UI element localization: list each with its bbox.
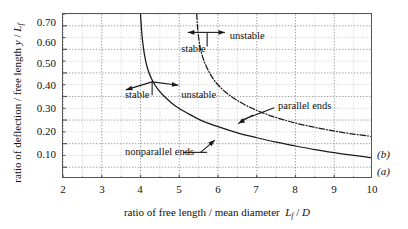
x-tick-label-10: 10: [362, 184, 382, 195]
y-tick-label-020: 0.20: [22, 126, 56, 137]
x-tick-label-5: 5: [169, 184, 189, 195]
x-axis-slash: /: [296, 206, 299, 218]
grid-major: [63, 14, 372, 178]
plot-svg: [63, 14, 372, 178]
curve-end-label-a: (a): [377, 165, 390, 177]
x-tick-label-3: 3: [92, 184, 112, 195]
leader-arrow: [207, 30, 225, 35]
x-axis-title: ratio of free length / mean diameter Lf …: [62, 206, 372, 220]
x-tick-label-4: 4: [130, 184, 150, 195]
curve-end-label-b: (b): [377, 148, 390, 160]
annotation-unstable-lower: unstable: [181, 89, 216, 100]
x-tick-label-7: 7: [246, 184, 266, 195]
y-tick-label-040: 0.40: [22, 80, 56, 91]
y-tick-label-060: 0.60: [22, 37, 56, 48]
plot-area: stable unstable stable unstable parallel…: [62, 13, 372, 178]
annotation-nonparallel-ends: nonparallel ends: [125, 146, 194, 157]
annotation-stable-upper: stable: [181, 43, 206, 54]
y-tick-label-070: 0.70: [22, 17, 56, 28]
y-tick-label-030: 0.30: [22, 103, 56, 114]
x-tick-label-8: 8: [285, 184, 305, 195]
x-tick-label-9: 9: [324, 184, 344, 195]
x-axis-title-text: ratio of free length / mean diameter: [124, 206, 280, 218]
y-tick-label-050: 0.50: [22, 58, 56, 69]
chart-figure: ratio of deflection / free length y / Lf…: [0, 0, 408, 229]
leader-arrow: [238, 115, 253, 124]
annotation-parallel-ends: parallel ends: [278, 100, 331, 111]
grid-minor: [63, 14, 372, 178]
annotation-unstable-upper: unstable: [230, 30, 265, 41]
x-tick-label-2: 2: [53, 184, 73, 195]
leader-arrow: [188, 30, 207, 35]
y-tick-label-010: 0.10: [22, 149, 56, 160]
x-axis-symbol-D: D: [302, 206, 310, 218]
x-tick-label-6: 6: [208, 184, 228, 195]
annotation-stable-lower: stable: [125, 89, 150, 100]
x-axis-subscript-f: f: [291, 211, 293, 220]
leader-arrow: [201, 140, 215, 152]
axis-ticks: [63, 14, 372, 178]
